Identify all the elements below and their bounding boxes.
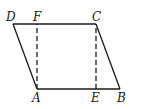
solid-edges xyxy=(13,24,120,89)
label-D: D xyxy=(5,10,16,24)
label-A: A xyxy=(31,91,41,105)
parallelogram-diagram: D F C A E B xyxy=(0,0,143,109)
label-F: F xyxy=(32,10,42,24)
label-E: E xyxy=(90,91,100,105)
segment-CB xyxy=(96,24,120,89)
label-B: B xyxy=(116,91,126,105)
dashed-altitudes xyxy=(37,24,96,89)
segment-AD xyxy=(13,24,37,89)
label-C: C xyxy=(92,10,101,24)
